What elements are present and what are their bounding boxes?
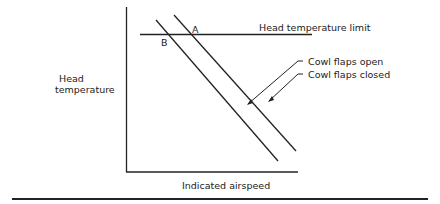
legend-closed-label: Cowl flaps closed	[308, 69, 390, 80]
y-axis-label-line2: temperature	[55, 84, 115, 95]
cowl-flaps-open-line	[156, 20, 278, 161]
diagram-canvas	[0, 0, 440, 204]
legend-open-label: Cowl flaps open	[308, 56, 383, 67]
y-axis-label-line1: Head	[59, 73, 84, 84]
cowl-flaps-closed-leader	[269, 74, 303, 101]
cowl-flaps-closed-line	[174, 15, 296, 151]
point-a-label: A	[192, 24, 199, 35]
x-axis-label: Indicated airspeed	[182, 180, 270, 191]
limit-label: Head temperature limit	[259, 22, 371, 33]
point-b-label: B	[161, 37, 168, 48]
cowl-flaps-open-leader	[248, 61, 303, 104]
